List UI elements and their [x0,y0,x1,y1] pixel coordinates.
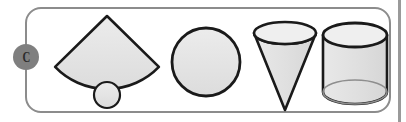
left-margin-badge-label: C [22,50,30,65]
left-margin-badge[interactable]: C [13,44,39,70]
circle-icon [172,28,240,96]
cone-net-sector-icon [55,16,159,89]
shape-cone[interactable] [254,22,316,110]
shape-circle[interactable] [172,28,240,96]
cone-net-base-circle-icon [94,82,120,108]
screenshot-root: C [0,0,406,122]
shape-cone-net[interactable] [55,16,159,108]
shape-cylinder[interactable] [323,23,387,104]
shapes-canvas [0,0,406,122]
cone-top-ellipse-icon [254,22,316,44]
cylinder-top-ellipse-icon [323,23,387,47]
